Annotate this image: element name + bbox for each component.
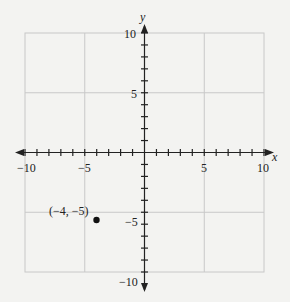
x-axis-arrow-left-icon	[15, 149, 24, 156]
x-tick-label-neg10: −10	[17, 161, 36, 175]
data-point	[93, 217, 99, 223]
x-axis-label: x	[271, 150, 278, 164]
x-tick-label-neg5: −5	[78, 161, 91, 175]
y-tick-label-neg5: −5	[125, 215, 138, 229]
y-tick-label-10: 10	[124, 27, 136, 41]
y-axis-arrow-down-icon	[141, 283, 148, 292]
y-axis	[141, 26, 148, 290]
y-tick-label-neg10: −10	[119, 275, 138, 289]
x-tick-label-5: 5	[201, 161, 207, 175]
y-tick-label-5: 5	[131, 87, 137, 101]
y-axis-arrow-up-icon	[141, 24, 148, 33]
y-axis-label: y	[139, 10, 146, 24]
coordinate-plane: x y −10 −5 5 10 10 5 −5 −10 (−4, −5)	[0, 0, 290, 302]
x-tick-label-10: 10	[257, 161, 269, 175]
data-point-label: (−4, −5)	[49, 204, 89, 218]
